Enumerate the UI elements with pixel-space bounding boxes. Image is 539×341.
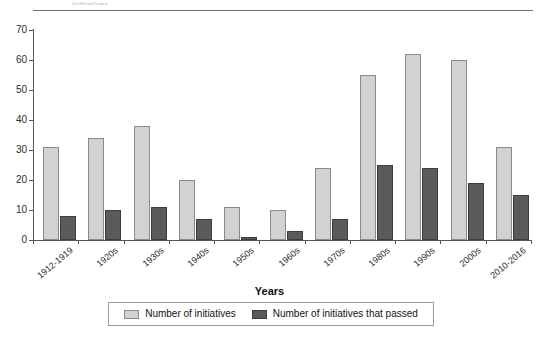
bar <box>287 231 303 240</box>
cut-off-caption: Initiatives <box>72 0 164 5</box>
y-tick-label: 20 <box>16 175 27 185</box>
bar-group <box>43 30 76 240</box>
x-tick-label: 1940s <box>186 246 211 269</box>
y-tick-mark <box>29 210 33 211</box>
bar <box>151 207 167 240</box>
x-tick-mark <box>395 240 396 244</box>
bar <box>496 147 512 240</box>
x-tick-label: 1930s <box>141 246 166 269</box>
bar-group <box>451 30 484 240</box>
bar <box>134 126 150 240</box>
y-tick-mark <box>29 150 33 151</box>
bar <box>468 183 484 240</box>
x-tick-mark <box>78 240 79 244</box>
bar-group <box>134 30 167 240</box>
x-tick-mark <box>169 240 170 244</box>
chart-legend: Number of initiativesNumber of initiativ… <box>108 302 434 326</box>
bar-group <box>179 30 212 240</box>
bar <box>422 168 438 240</box>
header-divider <box>33 10 533 11</box>
bar <box>179 180 195 240</box>
bar-group <box>360 30 393 240</box>
bar-group <box>315 30 348 240</box>
y-tick-label: 50 <box>16 85 27 95</box>
bar <box>332 219 348 240</box>
legend-label: Number of initiatives that passed <box>273 309 418 319</box>
bar <box>105 210 121 240</box>
y-tick-mark <box>29 30 33 31</box>
x-tick-mark <box>486 240 487 244</box>
bar <box>60 216 76 240</box>
y-tick-label: 60 <box>16 55 27 65</box>
bar <box>360 75 376 240</box>
legend-swatch <box>124 310 139 319</box>
bar <box>451 60 467 240</box>
bar <box>241 237 257 240</box>
x-tick-mark <box>33 240 34 244</box>
legend-item[interactable]: Number of initiatives that passed <box>252 309 418 319</box>
bar-group <box>496 30 529 240</box>
y-tick-mark <box>29 120 33 121</box>
x-tick-label: 1920s <box>96 246 121 269</box>
plot-area: 706050403020100 <box>33 30 531 240</box>
x-tick-label: 1980s <box>367 246 392 269</box>
bar-group <box>224 30 257 240</box>
y-tick-mark <box>29 60 33 61</box>
legend-label: Number of initiatives <box>145 309 236 319</box>
bar <box>377 165 393 240</box>
y-tick-label: 40 <box>16 115 27 125</box>
y-tick-label: 30 <box>16 145 27 155</box>
x-tick-label: 1970s <box>322 246 347 269</box>
x-tick-mark <box>259 240 260 244</box>
x-tick-mark <box>214 240 215 244</box>
x-tick-label: 1960s <box>277 246 302 269</box>
bar <box>43 147 59 240</box>
bar-group <box>88 30 121 240</box>
bar <box>196 219 212 240</box>
bar <box>315 168 331 240</box>
bar <box>513 195 529 240</box>
x-tick-mark <box>440 240 441 244</box>
bar <box>405 54 421 240</box>
y-tick-mark <box>29 90 33 91</box>
x-axis-title: Years <box>0 285 539 297</box>
y-tick-mark <box>29 180 33 181</box>
x-tick-mark <box>531 240 532 244</box>
chart-figure: Initiatives 706050403020100 1912-1919192… <box>0 0 539 341</box>
bar-group <box>270 30 303 240</box>
x-tick-label: 2000s <box>458 246 483 269</box>
x-axis-line <box>33 240 531 241</box>
x-tick-mark <box>124 240 125 244</box>
bar <box>224 207 240 240</box>
x-tick-mark <box>305 240 306 244</box>
y-tick-label: 70 <box>16 25 27 35</box>
bar <box>270 210 286 240</box>
x-tick-mark <box>350 240 351 244</box>
legend-item[interactable]: Number of initiatives <box>124 309 236 319</box>
y-tick-label: 0 <box>21 235 27 245</box>
x-tick-label: 1950s <box>231 246 256 269</box>
x-tick-label: 2010-2016 <box>489 246 528 281</box>
y-tick-label: 10 <box>16 205 27 215</box>
legend-swatch <box>252 310 267 319</box>
x-tick-label: 1990s <box>413 246 438 269</box>
bar <box>88 138 104 240</box>
bar-group <box>405 30 438 240</box>
x-tick-label: 1912-1919 <box>36 246 75 281</box>
